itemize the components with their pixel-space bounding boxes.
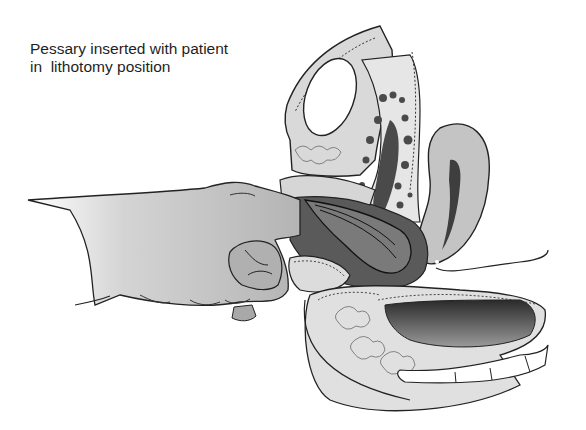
anterior-pelvis bbox=[285, 26, 393, 176]
uterus bbox=[417, 124, 548, 271]
hand bbox=[28, 182, 300, 320]
pelvic-illustration bbox=[0, 0, 586, 430]
rectum bbox=[304, 286, 548, 411]
